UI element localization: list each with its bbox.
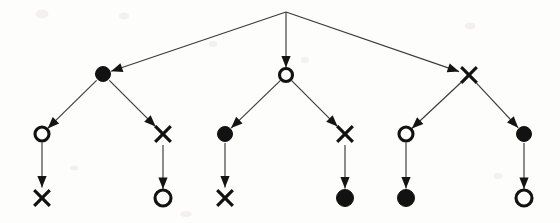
edge-arrowhead — [281, 56, 290, 68]
hollow-circle-node — [280, 69, 293, 82]
edge-arrowhead — [340, 177, 349, 189]
scan-speckle — [301, 57, 309, 63]
tree-edge — [286, 12, 459, 72]
edge-arrowhead — [401, 177, 410, 189]
cross-node — [217, 190, 233, 206]
edge-arrowhead — [220, 176, 229, 188]
hollow-circle-node — [35, 127, 49, 141]
scan-speckle — [70, 166, 78, 171]
filled-circle-node — [337, 190, 354, 207]
node-layer — [34, 67, 532, 207]
scan-speckle — [180, 211, 192, 217]
figure-canvas — [0, 0, 560, 223]
filled-circle-node — [218, 127, 233, 142]
cross-node — [461, 67, 477, 83]
filled-circle-node — [398, 190, 415, 207]
edge-arrowhead — [111, 63, 123, 72]
cross-node — [337, 126, 353, 142]
scan-speckle — [465, 23, 476, 30]
edge-arrowhead — [37, 176, 46, 188]
edge-arrowhead — [519, 178, 528, 190]
scan-speckle — [119, 13, 129, 20]
hollow-circle-node — [155, 190, 171, 206]
tree-edge — [111, 12, 286, 71]
hollow-circle-node — [516, 190, 532, 206]
edge-layer — [37, 12, 528, 189]
cross-node — [34, 190, 50, 206]
scan-speckle — [209, 41, 218, 47]
filled-circle-node — [517, 127, 532, 142]
scan-noise-layer — [36, 10, 503, 218]
edge-arrowhead — [158, 178, 167, 190]
cross-node — [155, 126, 171, 142]
hollow-circle-node — [399, 127, 413, 141]
edge-arrowhead — [447, 63, 459, 72]
tree-diagram — [0, 0, 560, 223]
filled-circle-node — [96, 67, 111, 82]
scan-speckle — [36, 10, 49, 19]
scan-speckle — [494, 173, 503, 179]
